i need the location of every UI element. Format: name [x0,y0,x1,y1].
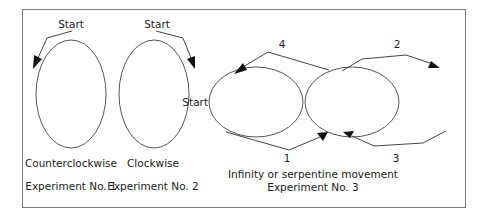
experiment-1: Start Counterclockwise Experiment No. 1 [25,18,117,192]
experiment-2-ellipse [119,40,189,148]
experiment-1-start-label: Start [58,18,84,30]
experiment-2-arrow-line [156,31,191,58]
experiment-3: Start 4 2 1 3 Infinity or serpentine mov… [182,38,446,193]
experiment-1-ellipse [36,40,106,148]
experiment-3-step-1-arrowhead-icon [317,132,328,141]
experiment-3-step-4-arrowhead-icon [234,63,247,74]
experiment-3-left-ellipse [209,67,303,137]
experiment-3-step-1: 1 [284,152,291,164]
experiment-3-start-label: Start [182,96,208,108]
experiment-3-right-ellipse [305,67,399,137]
experiment-3-step-2: 2 [394,38,401,50]
experiment-2-direction: Clockwise [127,157,179,169]
experiment-diagram: Start Counterclockwise Experiment No. 1 … [0,0,487,220]
experiment-2-caption: Experiment No. 2 [107,180,198,192]
experiment-3-caption: Experiment No. 3 [267,181,358,193]
experiment-1-direction: Counterclockwise [25,157,117,169]
experiment-3-step-4: 4 [279,38,286,50]
experiment-2-arrowhead-icon [187,56,195,69]
experiment-3-step-2-line [342,55,433,71]
experiment-3-direction: Infinity or serpentine movement [228,168,398,180]
experiment-1-caption: Experiment No. 1 [25,180,116,192]
experiment-3-step-3: 3 [393,152,400,164]
experiment-2-start-label: Start [144,18,170,30]
experiment-3-step-2-arrowhead-icon [428,61,440,68]
experiment-3-step-3-line [352,131,446,146]
experiment-1-arrow-line [38,31,72,58]
